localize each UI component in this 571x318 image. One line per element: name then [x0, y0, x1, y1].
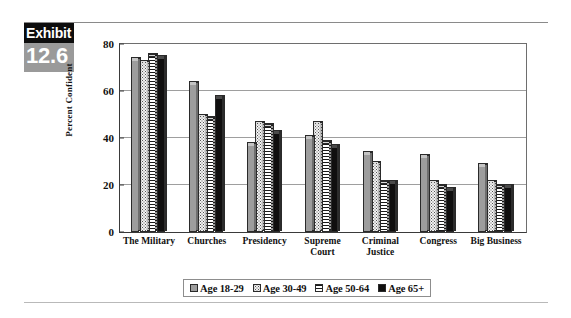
- y-axis-tick-labels: 020406080: [86, 43, 114, 232]
- bar-side-face: [395, 181, 398, 231]
- legend-item: Age 30-49: [253, 283, 307, 294]
- legend-item: Age 18-29: [190, 283, 244, 294]
- legend-label: Age 18-29: [200, 283, 244, 294]
- bar: [420, 157, 428, 232]
- legend-swatch-solid-black-icon: [378, 284, 386, 292]
- bottom-divider-rule: [24, 302, 548, 303]
- legend-label: Age 30-49: [263, 283, 307, 294]
- legend-item: Age 65+: [378, 283, 424, 294]
- y-tick-label-20: 20: [88, 179, 114, 191]
- bar: [305, 138, 313, 232]
- bar-group: [420, 43, 454, 232]
- bar-side-face: [138, 58, 141, 231]
- bar-group: [247, 43, 281, 232]
- y-tick-label-80: 80: [88, 38, 114, 50]
- bar-side-face: [320, 122, 323, 231]
- exhibit-figure: Exhibit 12.6 Percent Confident 020406080…: [0, 0, 571, 318]
- bar-side-face: [213, 117, 216, 231]
- bar-group: [131, 43, 165, 232]
- chart-legend: Age 18-29Age 30-49Age 50-64Age 65+: [183, 279, 431, 297]
- bar-group: [305, 43, 339, 232]
- bar: [247, 145, 255, 232]
- bar-side-face: [494, 181, 497, 231]
- bar-group: [189, 43, 223, 232]
- y-tick-mark-60: [119, 91, 124, 92]
- bar-side-face: [387, 181, 390, 231]
- bar: [363, 154, 371, 232]
- bar-side-face: [271, 124, 274, 231]
- x-axis-category-labels: The MilitaryChurchesPresidencySupreme Co…: [120, 236, 525, 270]
- bar-side-face: [222, 96, 225, 231]
- bar-side-face: [205, 115, 208, 231]
- bar-side-face: [453, 188, 456, 231]
- bar-side-face: [312, 136, 315, 231]
- bar-side-face: [436, 181, 439, 231]
- bar-side-face: [337, 145, 340, 231]
- bar-side-face: [329, 141, 332, 231]
- legend-label: Age 50-64: [325, 283, 369, 294]
- top-divider-rule: [24, 22, 548, 23]
- bar-side-face: [155, 54, 158, 231]
- bar-side-face: [262, 122, 265, 231]
- legend-item: Age 50-64: [315, 283, 369, 294]
- y-tick-mark-80: [119, 44, 124, 45]
- bar-side-face: [502, 185, 505, 231]
- legend-label: Age 65+: [388, 283, 424, 294]
- bar-side-face: [164, 56, 167, 231]
- bar-series-layer: [120, 43, 525, 232]
- bar-side-face: [485, 164, 488, 231]
- bar-side-face: [147, 61, 150, 231]
- legend-swatch-solid-gray-icon: [190, 284, 198, 292]
- bar-side-face: [378, 162, 381, 231]
- legend-swatch-horizontal-stripes-icon: [315, 284, 323, 292]
- bar-side-face: [370, 152, 373, 231]
- bar-group: [478, 43, 512, 232]
- bar-group: [363, 43, 397, 232]
- x-axis-label: Big Business: [461, 236, 531, 247]
- bar-side-face: [427, 155, 430, 231]
- y-tick-label-60: 60: [88, 85, 114, 97]
- y-axis-title: Percent Confident: [64, 25, 74, 175]
- bar-side-face: [444, 185, 447, 231]
- y-tick-label-0: 0: [88, 226, 114, 238]
- bar: [478, 166, 486, 232]
- legend-swatch-dotted-icon: [253, 284, 261, 292]
- bar-side-face: [196, 82, 199, 231]
- bar-side-face: [254, 143, 257, 231]
- bar-side-face: [511, 185, 514, 231]
- y-tick-mark-20: [119, 185, 124, 186]
- bar-side-face: [279, 131, 282, 231]
- y-tick-mark-40: [119, 138, 124, 139]
- y-tick-mark-0: [119, 232, 124, 233]
- y-tick-label-40: 40: [88, 132, 114, 144]
- bar: [189, 84, 197, 232]
- bar: [131, 60, 139, 232]
